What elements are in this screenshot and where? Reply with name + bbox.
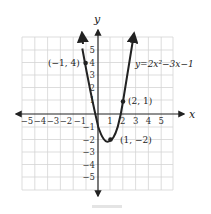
- point-neg1-4: [83, 61, 88, 66]
- x-tick: 1: [107, 116, 112, 126]
- figure-caption: [92, 205, 122, 208]
- y-tick: −4: [82, 160, 95, 170]
- x-axis-label: x: [189, 108, 196, 121]
- x-tick: 4: [146, 116, 151, 126]
- y-tick: 5: [90, 45, 95, 55]
- x-tick: −2: [60, 116, 73, 126]
- y-tick: −1: [82, 122, 95, 132]
- y-tick: −2: [82, 135, 95, 145]
- y-axis-label: y: [93, 13, 101, 26]
- point-label-1-neg2: (1, −2): [120, 135, 152, 145]
- x-tick: 3: [133, 116, 138, 126]
- y-tick: −3: [82, 147, 95, 157]
- equation-label: y=2x²−3x−1: [134, 59, 194, 69]
- x-tick: −3: [47, 116, 60, 126]
- y-tick: −5: [82, 172, 95, 182]
- x-tick: −4: [34, 116, 47, 126]
- y-tick: 4: [90, 58, 95, 68]
- parabola-chart: x y −5 −4 −3 −2 −1 1 2 3 4 5 5 4 3 2 1 −…: [0, 0, 211, 214]
- point-label-2-1: (2, 1): [128, 96, 152, 106]
- point-label-neg1-4: (−1, 4): [48, 58, 80, 68]
- x-tick: −5: [21, 116, 34, 126]
- x-tick: 5: [158, 116, 163, 126]
- point-1-neg2: [108, 137, 113, 142]
- parabola-left-arrow: [82, 33, 83, 44]
- point-2-1: [121, 99, 126, 104]
- y-tick: 3: [90, 70, 95, 80]
